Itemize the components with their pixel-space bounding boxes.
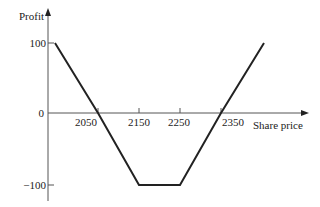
x-tick-label-2250: 2250: [168, 116, 191, 128]
y-tick-label-100: 100: [30, 37, 47, 49]
profit-line: [55, 43, 264, 185]
x-tick-label-2050: 2050: [75, 116, 98, 128]
x-tick-label-2350: 2350: [222, 116, 245, 128]
x-tick-label-2150: 2150: [128, 116, 151, 128]
y-tick-label-neg100: −100: [23, 179, 46, 191]
x-axis-arrow-icon: [301, 110, 309, 116]
y-axis-label: Profit: [19, 10, 44, 22]
y-axis-arrow-icon: [45, 8, 51, 16]
x-axis-label: Share price: [253, 119, 303, 131]
profit-chart: Profit 100 0 −100 2050 2150 2250 2350 Sh…: [0, 0, 320, 207]
y-tick-label-0: 0: [39, 107, 45, 119]
